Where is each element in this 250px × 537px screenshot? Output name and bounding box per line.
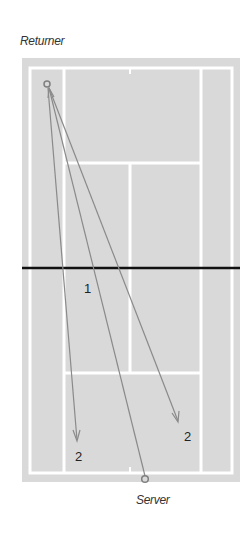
server-position-marker-icon [142, 476, 149, 483]
server-label: Server [136, 493, 170, 507]
returner-position-marker-icon [44, 81, 50, 87]
tennis-court-diagram: 1 2 2 [0, 0, 250, 537]
shot-2a-label: 2 [75, 449, 82, 464]
shot-1-label: 1 [84, 281, 91, 296]
shot-2b-label: 2 [184, 429, 191, 444]
